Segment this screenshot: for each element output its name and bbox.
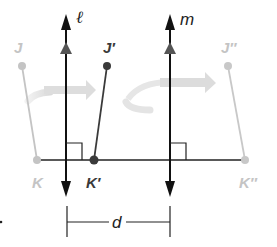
label-j-prime: J′ bbox=[103, 39, 116, 56]
label-k: K bbox=[32, 174, 44, 191]
point-j bbox=[18, 62, 26, 70]
right-angle-mark bbox=[66, 143, 82, 160]
line-l bbox=[60, 14, 82, 197]
mirror-marker-icon bbox=[60, 42, 72, 54]
label-line-l: ℓ bbox=[76, 8, 83, 27]
label-line-m: m bbox=[180, 10, 194, 29]
rotation-arrow-left bbox=[28, 80, 96, 101]
segment-jk bbox=[18, 62, 41, 164]
segment-j-prime-k-prime bbox=[90, 62, 112, 165]
label-k-prime: K′ bbox=[86, 174, 102, 191]
arrow-down-icon bbox=[165, 181, 175, 197]
stray-dot bbox=[0, 221, 2, 224]
right-angle-mark bbox=[170, 143, 186, 160]
arrow-down-icon bbox=[61, 181, 71, 197]
point-j-prime bbox=[103, 62, 111, 70]
reflection-diagram: ℓ m J J′ J″ K K′ K″ d bbox=[0, 0, 277, 247]
segment-j-double-prime-k-double-prime bbox=[224, 62, 249, 164]
line-m bbox=[164, 14, 186, 197]
label-j-double-prime: J″ bbox=[221, 39, 237, 56]
arrow-up-icon bbox=[165, 14, 175, 30]
point-k-prime bbox=[90, 156, 99, 165]
mirror-marker-icon bbox=[164, 42, 176, 54]
point-k bbox=[33, 156, 41, 164]
point-j-double-prime bbox=[224, 62, 232, 70]
label-distance: d bbox=[112, 213, 122, 232]
label-k-double-prime: K″ bbox=[239, 174, 258, 191]
point-k-double-prime bbox=[241, 156, 249, 164]
label-j: J bbox=[14, 39, 23, 56]
arrow-up-icon bbox=[61, 14, 71, 30]
